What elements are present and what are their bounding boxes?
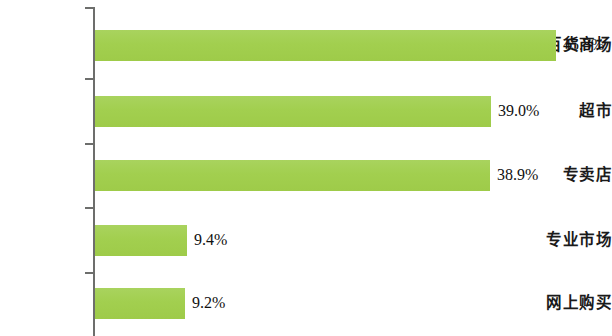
bar-value-label: 38.9% (497, 167, 538, 183)
bar-segment (95, 30, 556, 61)
bar-segment (95, 96, 491, 127)
bar-value-label: 9.4% (194, 232, 227, 248)
bar-segment (95, 288, 185, 319)
bar-segment (95, 160, 490, 191)
axis-tick-0 (85, 7, 94, 9)
bar-chart: 百货商场 45.3% 超市 39.0% 专卖店 38.9% 专业市场 9.4% … (0, 0, 612, 336)
axis-tick-1 (85, 78, 94, 80)
bar-segment (95, 225, 187, 256)
bar-value-label: 39.0% (498, 103, 539, 119)
axis-tick-4 (85, 272, 94, 274)
axis-tick-2 (85, 143, 94, 145)
bar-value-label: 9.2% (192, 295, 225, 311)
category-label: 网上购买 (524, 295, 612, 311)
bar-value-label: 45.3% (563, 37, 604, 53)
category-label: 专业市场 (524, 232, 612, 248)
axis-tick-3 (85, 207, 94, 209)
